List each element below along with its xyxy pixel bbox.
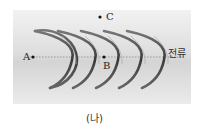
point-a-label: A	[23, 52, 30, 62]
point-c-label: C	[106, 12, 114, 22]
point-c-dot	[98, 15, 101, 18]
figure-caption: (나)	[86, 110, 103, 125]
point-b-label: B	[103, 61, 110, 71]
point-b-dot	[102, 55, 105, 58]
current-label: 전류	[168, 45, 186, 60]
point-a-dot	[31, 55, 34, 58]
